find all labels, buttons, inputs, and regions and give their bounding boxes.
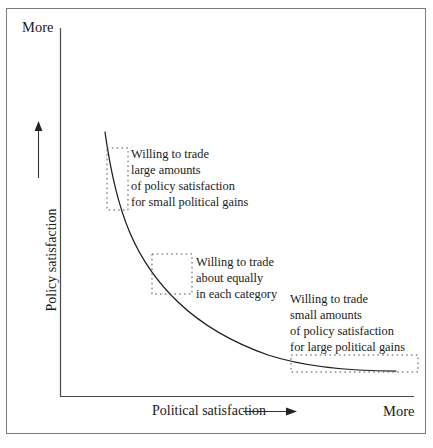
- annotation-line: of policy satisfaction: [131, 178, 248, 194]
- annotation-middle: Willing to trade about equally in each c…: [196, 254, 277, 302]
- annotation-lower-right: Willing to trade small amounts of policy…: [290, 291, 405, 356]
- annotation-line: for small political gains: [131, 194, 248, 210]
- indifference-curve-figure: More More Policy satisfaction Political …: [0, 0, 433, 448]
- annotation-line: small amounts: [290, 307, 405, 323]
- annotation-line: about equally: [196, 270, 277, 286]
- annotation-line: for large political gains: [290, 339, 405, 355]
- x-axis-max-label: More: [383, 404, 414, 419]
- y-axis-max-label: More: [22, 20, 53, 35]
- annotation-upper-left: Willing to trade large amounts of policy…: [131, 146, 248, 211]
- tradeoff-box-upper-left: [107, 148, 128, 210]
- annotation-line: in each category: [196, 286, 277, 302]
- tradeoff-box-middle: [152, 254, 192, 294]
- y-axis-title: Policy satisfaction: [44, 170, 60, 350]
- x-axis-title: Political satisfaction: [152, 404, 266, 418]
- annotation-line: of policy satisfaction: [290, 323, 405, 339]
- y-axis-arrow-icon: [35, 121, 43, 178]
- annotation-line: Willing to trade: [196, 254, 277, 270]
- annotation-line: Willing to trade: [290, 291, 405, 307]
- annotation-line: Willing to trade: [131, 146, 248, 162]
- plot-canvas: [0, 0, 433, 448]
- annotation-line: large amounts: [131, 162, 248, 178]
